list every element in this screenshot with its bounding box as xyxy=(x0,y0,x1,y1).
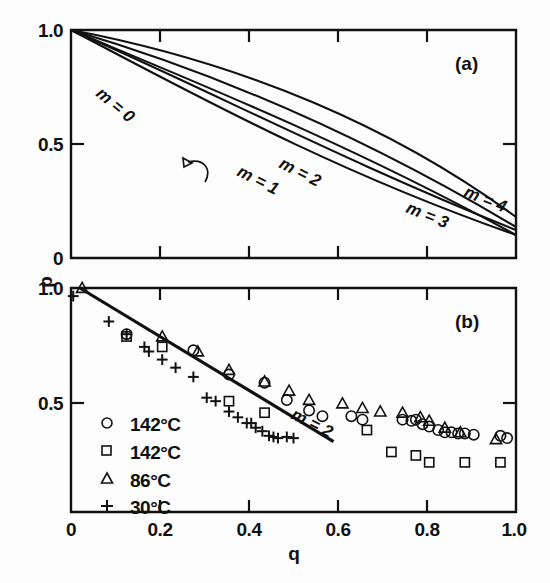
figure-container: 1.0 0.5 0 (a) m = 0 m = 1 m = 2 m = 3 m … xyxy=(0,0,550,583)
panel-a-ytick-1: 1.0 xyxy=(38,20,63,41)
panel-b-xtick-1: 1.0 xyxy=(502,519,527,540)
legend-label-0: 142°C xyxy=(130,414,181,435)
triangle-marker xyxy=(397,407,408,417)
fit-line-label: m = 2 xyxy=(288,405,336,442)
panel-b-top-ticks xyxy=(160,288,427,300)
legend: 142°C 142°C 86°C 30°C xyxy=(101,414,181,518)
circle-marker xyxy=(102,418,112,428)
curve-label-m3: m = 3 xyxy=(404,198,452,232)
plus-marker xyxy=(188,372,199,383)
square-marker xyxy=(362,425,371,434)
plus-marker xyxy=(103,316,114,327)
plus-marker xyxy=(232,412,243,423)
triangle-marker xyxy=(283,385,294,395)
panel-b-xtick-02: 0.2 xyxy=(148,519,173,540)
circle-marker xyxy=(282,395,292,405)
panel-a-label: (a) xyxy=(455,53,478,74)
square-marker xyxy=(158,342,167,351)
circle-marker xyxy=(502,433,512,443)
legend-label-3: 30°C xyxy=(130,497,171,518)
triangle-marker xyxy=(303,394,314,404)
legend-label-2: 86°C xyxy=(130,470,171,491)
circle-marker xyxy=(357,414,367,424)
square-marker xyxy=(224,397,233,406)
circle-marker xyxy=(346,411,356,421)
plus-marker xyxy=(101,500,113,512)
plus-marker xyxy=(157,354,168,365)
plus-marker xyxy=(281,432,292,443)
panel-a-top-ticks xyxy=(160,30,427,42)
panel-a-ytick-05: 0.5 xyxy=(38,134,64,155)
triangle-marker xyxy=(259,376,270,386)
plus-marker xyxy=(224,406,235,417)
panel-b-ytick-1: 1.0 xyxy=(38,278,63,299)
square-marker xyxy=(425,458,434,467)
panel-a-bottom-ticks xyxy=(160,246,427,258)
legend-item-1: 142°C xyxy=(102,442,181,463)
plus-marker xyxy=(288,433,299,444)
triangle-marker xyxy=(357,402,368,412)
legend-label-1: 142°C xyxy=(130,442,181,463)
panel-b-xtick-08: 0.8 xyxy=(415,519,440,540)
panel-b: 1.0 0.5 0 0.2 0.4 0.6 0.8 1.0 q (b) m = … xyxy=(38,278,526,564)
legend-item-2: 86°C xyxy=(102,470,172,491)
plus-marker xyxy=(170,362,181,373)
x-axis-label: q xyxy=(288,543,300,564)
scatter-points-layer xyxy=(68,282,512,467)
square-marker xyxy=(460,458,469,467)
legend-item-3: 30°C xyxy=(101,497,171,518)
curve-label-m2: m = 2 xyxy=(276,154,324,191)
square-marker xyxy=(260,408,269,417)
triangle-marker xyxy=(375,406,386,416)
panel-a: 1.0 0.5 0 (a) m = 0 m = 1 m = 2 m = 3 m … xyxy=(38,20,516,269)
triangle-marker xyxy=(337,398,348,408)
square-marker xyxy=(496,458,505,467)
panel-a-ytick-0: 0 xyxy=(53,248,63,269)
figure-svg: 1.0 0.5 0 (a) m = 0 m = 1 m = 2 m = 3 m … xyxy=(0,0,550,583)
panel-b-bottom-ticks xyxy=(160,500,427,512)
square-marker xyxy=(102,446,111,455)
triangle-marker xyxy=(102,473,113,483)
square-marker xyxy=(387,447,396,456)
panel-b-ytick-05: 0.5 xyxy=(38,393,64,414)
legend-item-0: 142°C xyxy=(102,414,181,435)
panel-b-xtick-06: 0.6 xyxy=(326,519,351,540)
square-marker xyxy=(411,451,420,460)
panel-b-label: (b) xyxy=(455,311,479,332)
curve-label-m1: m = 1 xyxy=(234,162,282,199)
curve-label-m0: m = 0 xyxy=(92,84,138,127)
panel-b-xtick-0: 0 xyxy=(66,519,76,540)
panel-b-xtick-04: 0.4 xyxy=(237,519,263,540)
m1-leader-arrow xyxy=(183,158,192,167)
